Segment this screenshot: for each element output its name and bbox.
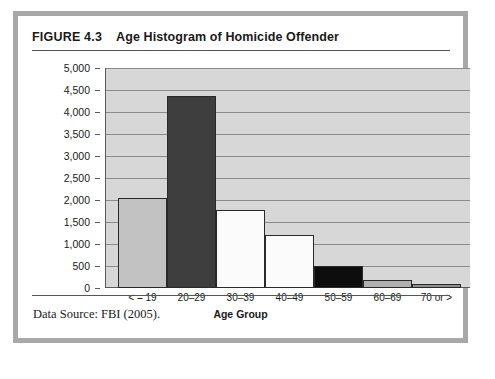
figure-frame: FIGURE 4.3 Age Histogram of Homicide Off…: [13, 11, 468, 343]
bar-series: [106, 68, 470, 288]
y-axis-tick-mark: [95, 112, 100, 113]
y-axis-tick-label: 1,500: [36, 216, 90, 228]
y-axis-tick-mark: [95, 222, 100, 223]
y-axis-tick-mark: [95, 244, 100, 245]
x-axis-tick-label: 60–69: [363, 292, 412, 303]
x-axis-tick-label: 20–29: [167, 292, 216, 303]
y-axis-tick-label: 0: [36, 282, 90, 294]
x-axis-tick-label: < = 19: [118, 292, 167, 303]
y-axis-tick-mark: [95, 90, 100, 91]
y-axis-tick-label: 4,000: [36, 106, 90, 118]
x-axis-tick-label: 30–39: [216, 292, 265, 303]
x-axis-tick-label: 40–49: [265, 292, 314, 303]
y-axis: 05001,0001,5002,0002,5003,0003,5004,0004…: [18, 68, 100, 288]
y-axis-tick-label: 4,500: [36, 84, 90, 96]
y-axis-tick-label: 3,000: [36, 150, 90, 162]
bar: [167, 96, 216, 288]
y-axis-tick-label: 2,000: [36, 194, 90, 206]
source-note: Data Source: FBI (2005).: [33, 307, 160, 322]
x-axis-tick-label: 70 or >: [412, 292, 461, 303]
y-axis-tick-label: 3,500: [36, 128, 90, 140]
y-axis-tick-mark: [95, 68, 100, 69]
y-axis-tick-label: 5,000: [36, 62, 90, 74]
bar: [363, 280, 412, 288]
y-axis-tick-mark: [95, 288, 100, 289]
y-axis-tick-label: 2,500: [36, 172, 90, 184]
bar: [265, 235, 314, 288]
figure-number: FIGURE 4.3: [32, 30, 102, 44]
x-axis-tick-label: 50–59: [314, 292, 363, 303]
y-axis-tick-mark: [95, 266, 100, 267]
bar: [412, 284, 461, 288]
figure-card: FIGURE 4.3 Age Histogram of Homicide Off…: [18, 16, 463, 338]
chart-region: 05001,0001,5002,0002,5003,0003,5004,0004…: [18, 56, 463, 306]
figure-header: FIGURE 4.3 Age Histogram of Homicide Off…: [32, 24, 450, 50]
y-axis-tick-mark: [95, 134, 100, 135]
y-axis-tick-mark: [95, 178, 100, 179]
y-axis-tick-mark: [95, 200, 100, 201]
y-axis-tick-label: 1,000: [36, 238, 90, 250]
footer-divider: [32, 295, 450, 296]
figure-title: Age Histogram of Homicide Offender: [116, 30, 339, 44]
y-axis-tick-mark: [95, 156, 100, 157]
bar: [118, 198, 167, 288]
bar: [314, 266, 363, 288]
header-divider: [32, 50, 450, 51]
bar: [216, 210, 265, 288]
y-axis-tick-label: 500: [36, 260, 90, 272]
